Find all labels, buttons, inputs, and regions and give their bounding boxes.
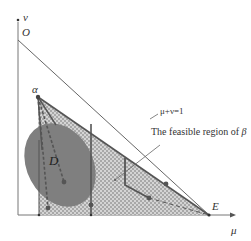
alpha-label: α — [32, 84, 38, 95]
y-axis-tip-icon — [17, 19, 20, 22]
e-label: E — [212, 201, 219, 212]
line-label: μ+ν=1 — [160, 107, 184, 116]
alpha-point — [36, 95, 40, 99]
point-e — [207, 213, 210, 216]
d-label: D — [49, 154, 58, 167]
annotation-text-body: The feasible region of — [151, 126, 239, 137]
point-d — [62, 180, 67, 185]
x-axis-label: μ — [231, 225, 237, 236]
y-axis-label: v — [23, 12, 28, 23]
annotation-text: The feasible region of β — [151, 127, 247, 137]
beta-symbol: β — [242, 126, 247, 137]
x-axis-arrow-icon — [230, 213, 236, 218]
origin-label: O — [22, 27, 30, 38]
